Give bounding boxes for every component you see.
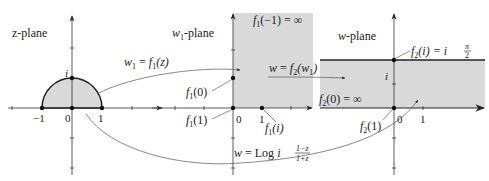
- tick-zero: 0: [65, 112, 71, 124]
- pi-denominator: 2: [465, 51, 469, 60]
- frac-numerator: 1−z: [296, 144, 309, 153]
- w1-tick-zero: 0: [236, 113, 242, 125]
- f1-minus-one-label: f1(−1) = ∞: [253, 13, 302, 29]
- map1-label: w1 = f1(z): [124, 55, 169, 71]
- point-i: [70, 76, 74, 80]
- w1-tick-one: 1: [259, 113, 265, 125]
- arrow-f1: [97, 69, 240, 94]
- conformal-mapping-diagram: z-plane −1 0 1 i w1-plane f1(−1) = ∞ f1(…: [0, 0, 489, 181]
- point-f1-i: [260, 106, 264, 110]
- w1-plane-panel: w1-plane f1(−1) = ∞ f1(0) f1(1) 0 1 f1(i…: [152, 13, 313, 175]
- tick-minus-one: −1: [33, 112, 45, 124]
- point-minus-one: [40, 106, 44, 110]
- log-map-label: w = Log i: [234, 146, 280, 160]
- w-tick-one: 1: [420, 113, 426, 125]
- f2-zero-label: f2(0) = ∞: [319, 92, 362, 108]
- z-plane-panel: z-plane −1 0 1 i: [8, 16, 162, 175]
- point-f2-1: [392, 106, 396, 110]
- frac-denominator: 1+z: [296, 154, 309, 163]
- pi-numerator: π: [465, 42, 470, 51]
- tick-i: i: [65, 67, 68, 79]
- f1-zero-label: f1(0): [186, 85, 207, 101]
- tick-one: 1: [98, 112, 104, 124]
- w-tick-i: i: [385, 70, 388, 82]
- f2-i-label: f2(i) = i: [411, 44, 447, 60]
- w-plane-panel: w-plane f2(i) = i π 2 i f2(0) = ∞ 0 1 f2…: [319, 14, 485, 175]
- point-zero: [70, 106, 74, 110]
- w1-plane-title: w1-plane: [172, 26, 214, 42]
- point-f2-i: [392, 58, 396, 62]
- f1-i-label: f1(i): [265, 121, 284, 137]
- f1-one-label: f1(1): [186, 113, 207, 129]
- w-plane-title: w-plane: [338, 29, 376, 43]
- point-one: [100, 106, 104, 110]
- point-f1-1: [231, 106, 235, 110]
- z-plane-title: z-plane: [12, 26, 47, 40]
- point-f1-0: [231, 76, 235, 80]
